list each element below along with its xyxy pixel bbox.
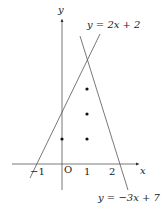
line-label-2x-plus-2: y = 2x + 2	[87, 19, 141, 30]
line-label-neg3x-plus-7: y = −3x + 7	[98, 192, 160, 203]
x-axis-label: x	[140, 165, 146, 176]
lattice-points	[60, 87, 88, 140]
tick-label-neg1: −1	[30, 166, 45, 177]
tick-label-1: 1	[84, 166, 90, 177]
tick-label-2: 2	[109, 166, 115, 177]
line-2x-plus-2	[30, 34, 100, 178]
origin-label: O	[64, 164, 72, 175]
y-axis-label: y	[58, 4, 64, 15]
graph-canvas	[0, 0, 165, 212]
coordinate-diagram: y x O −1 1 2 y = 2x + 2 y = −3x + 7	[0, 0, 165, 212]
